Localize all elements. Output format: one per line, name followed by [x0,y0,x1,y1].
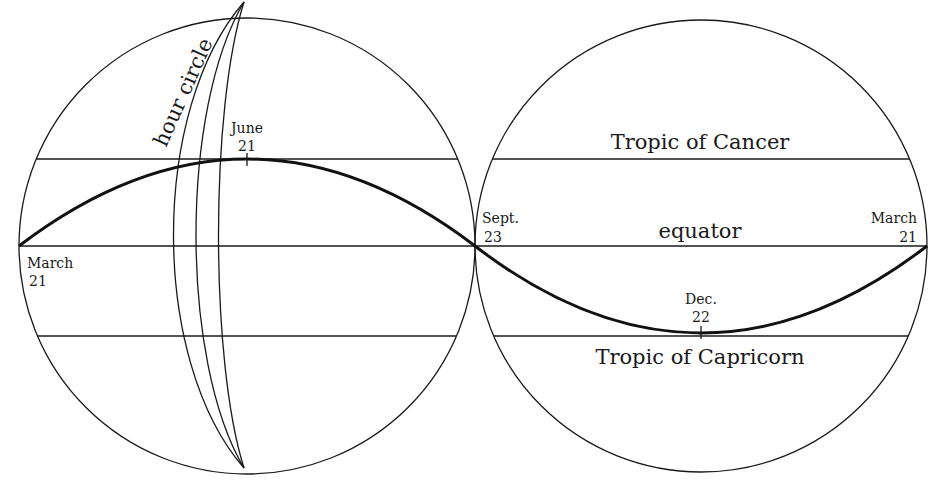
left-ecliptic-path [19,159,475,246]
sept-day-label: 23 [484,229,502,245]
dec-day-label: 22 [692,309,710,325]
hour-circle-label: hour circle [149,34,218,150]
june-day-label: 21 [238,138,256,154]
equator-label: equator [658,219,742,243]
sept-month-label: Sept. [482,210,519,226]
celestial-sphere-diagram: hour circle June 21 March 21 Tropic of C… [0,0,940,485]
left-sphere: hour circle June 21 March 21 [0,2,480,474]
right-sphere: Tropic of Cancer equator Tropic of Capri… [470,20,940,472]
dec-month-label: Dec. [685,291,717,307]
tropic-capricorn-label: Tropic of Capricorn [595,345,804,369]
march-day-label-left: 21 [29,273,47,289]
march-month-label-right: March [871,210,917,226]
june-month-label: June [229,120,263,136]
hour-circle-line-3 [219,2,245,468]
march-day-label-right: 21 [899,229,917,245]
march-month-label-left: March [27,255,73,271]
tropic-cancer-label: Tropic of Cancer [611,130,791,154]
